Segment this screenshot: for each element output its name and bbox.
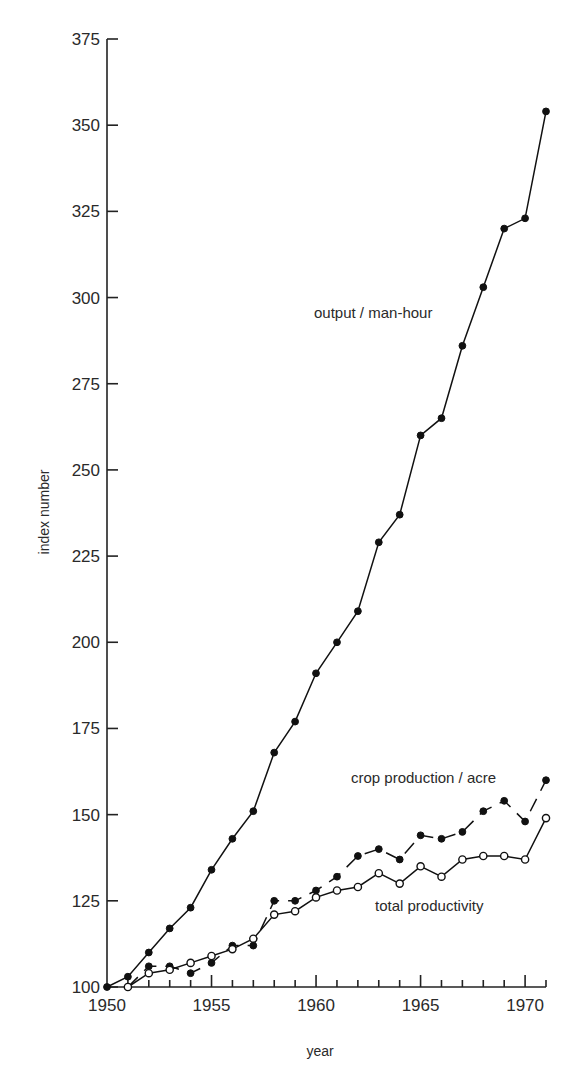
open-circle-marker xyxy=(501,852,508,859)
open-circle-marker xyxy=(417,863,424,870)
filled-circle-marker xyxy=(334,639,341,646)
open-circle-marker xyxy=(250,935,257,942)
open-circle-marker xyxy=(166,966,173,973)
open-circle-marker xyxy=(208,952,215,959)
open-circle-marker xyxy=(396,880,403,887)
line-chart: 100125150175200225250275300325350375 195… xyxy=(0,0,583,1081)
y-tick-label: 225 xyxy=(72,547,100,566)
y-tick-label: 100 xyxy=(72,978,100,997)
filled-circle-marker xyxy=(438,415,445,422)
y-axis-title: index number xyxy=(36,469,52,554)
x-axis: 19501955196019651970 xyxy=(88,975,546,1015)
open-circle-marker xyxy=(522,856,529,863)
filled-circle-marker xyxy=(292,897,299,904)
open-circle-marker xyxy=(459,856,466,863)
filled-circle-marker xyxy=(104,984,111,991)
y-axis: 100125150175200225250275300325350375 xyxy=(72,30,118,997)
open-circle-marker xyxy=(271,911,278,918)
filled-circle-marker xyxy=(375,846,382,853)
filled-circle-marker xyxy=(145,963,152,970)
filled-circle-marker xyxy=(522,215,529,222)
open-circle-marker xyxy=(312,894,319,901)
open-circle-marker xyxy=(333,887,340,894)
filled-circle-marker xyxy=(313,670,320,677)
filled-circle-marker xyxy=(396,511,403,518)
filled-circle-marker xyxy=(208,866,215,873)
y-tick-label: 125 xyxy=(72,892,100,911)
filled-circle-marker xyxy=(417,832,424,839)
series-total-productivity xyxy=(124,815,549,991)
filled-circle-marker xyxy=(187,970,194,977)
open-circle-marker xyxy=(375,870,382,877)
filled-circle-marker xyxy=(355,608,362,615)
open-circle-marker xyxy=(229,946,236,953)
filled-circle-marker xyxy=(480,284,487,291)
y-tick-label: 275 xyxy=(72,375,100,394)
label-total-productivity: total productivity xyxy=(375,897,484,914)
label-crop-production-per-acre: crop production / acre xyxy=(351,769,496,786)
open-circle-marker xyxy=(145,970,152,977)
filled-circle-marker xyxy=(417,432,424,439)
y-tick-label: 250 xyxy=(72,461,100,480)
filled-circle-marker xyxy=(271,897,278,904)
y-tick-label: 175 xyxy=(72,719,100,738)
filled-circle-marker xyxy=(543,108,550,115)
filled-circle-marker xyxy=(459,829,466,836)
filled-circle-marker xyxy=(375,539,382,546)
y-tick-label: 200 xyxy=(72,633,100,652)
y-tick-label: 350 xyxy=(72,116,100,135)
filled-circle-marker xyxy=(125,973,132,980)
open-circle-marker xyxy=(480,852,487,859)
filled-circle-marker xyxy=(459,342,466,349)
open-circle-marker xyxy=(124,983,131,990)
filled-circle-marker xyxy=(250,942,257,949)
filled-circle-marker xyxy=(438,835,445,842)
x-tick-label: 1960 xyxy=(297,996,335,1015)
x-axis-title: year xyxy=(306,1043,334,1059)
x-tick-label: 1955 xyxy=(193,996,231,1015)
y-tick-label: 375 xyxy=(72,30,100,49)
filled-circle-marker xyxy=(145,949,152,956)
filled-circle-marker xyxy=(334,873,341,880)
filled-circle-marker xyxy=(292,718,299,725)
y-tick-label: 150 xyxy=(72,806,100,825)
open-circle-marker xyxy=(187,959,194,966)
series-crop-production-per-acre xyxy=(125,777,550,991)
open-circle-marker xyxy=(438,873,445,880)
open-circle-marker xyxy=(292,908,299,915)
filled-circle-marker xyxy=(522,818,529,825)
y-tick-label: 300 xyxy=(72,289,100,308)
filled-circle-marker xyxy=(355,853,362,860)
filled-circle-marker xyxy=(208,960,215,967)
x-tick-label: 1965 xyxy=(402,996,440,1015)
x-tick-label: 1950 xyxy=(88,996,126,1015)
filled-circle-marker xyxy=(501,797,508,804)
filled-circle-marker xyxy=(543,777,550,784)
filled-circle-marker xyxy=(166,925,173,932)
open-circle-marker xyxy=(542,815,549,822)
filled-circle-marker xyxy=(313,887,320,894)
series-layer xyxy=(104,108,550,991)
x-tick-label: 1970 xyxy=(506,996,544,1015)
filled-circle-marker xyxy=(480,808,487,815)
filled-circle-marker xyxy=(396,856,403,863)
filled-circle-marker xyxy=(271,749,278,756)
filled-circle-marker xyxy=(187,904,194,911)
label-output-per-man-hour: output / man-hour xyxy=(314,304,432,321)
filled-circle-marker xyxy=(250,808,257,815)
filled-circle-marker xyxy=(501,225,508,232)
y-tick-label: 325 xyxy=(72,202,100,221)
open-circle-marker xyxy=(354,883,361,890)
filled-circle-marker xyxy=(229,835,236,842)
